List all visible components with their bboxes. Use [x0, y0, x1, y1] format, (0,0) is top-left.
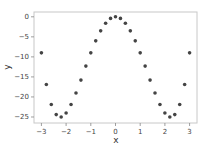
data-point: [79, 78, 83, 82]
y-tick-label: −10: [14, 53, 29, 61]
x-tick-label: −3: [36, 128, 46, 136]
data-point: [183, 83, 187, 87]
y-axis-label: y: [2, 64, 12, 70]
data-point: [124, 21, 128, 25]
y-axis-ticks: 0−5−10−15−20−25: [14, 13, 34, 121]
x-tick-label: 2: [163, 128, 167, 136]
y-tick-label: −15: [14, 73, 29, 81]
data-point: [148, 78, 152, 82]
y-tick-label: 0: [25, 13, 29, 21]
data-points: [40, 15, 192, 119]
data-point: [94, 39, 98, 43]
data-point: [54, 113, 58, 117]
x-tick-label: 3: [187, 128, 191, 136]
data-point: [84, 64, 88, 68]
y-tick-label: −20: [14, 93, 29, 101]
x-tick-label: −1: [86, 128, 96, 136]
x-tick-label: −2: [61, 128, 71, 136]
data-point: [153, 91, 157, 95]
data-point: [49, 103, 53, 107]
data-point: [89, 51, 93, 55]
x-axis-label: x: [113, 135, 119, 145]
data-point: [109, 17, 113, 21]
data-point: [188, 51, 192, 55]
data-point: [74, 91, 78, 95]
data-point: [173, 113, 177, 117]
data-point: [114, 15, 118, 19]
data-point: [178, 103, 182, 107]
x-tick-label: 1: [138, 128, 142, 136]
data-point: [40, 51, 44, 55]
data-point: [64, 111, 68, 115]
data-point: [133, 39, 137, 43]
data-point: [168, 115, 172, 119]
data-point: [163, 111, 167, 115]
y-tick-label: −5: [19, 33, 29, 41]
data-point: [129, 29, 133, 33]
data-point: [99, 29, 103, 33]
data-point: [45, 83, 49, 87]
data-point: [69, 103, 73, 107]
data-point: [104, 21, 108, 25]
axes-frame: [34, 12, 197, 123]
data-point: [158, 103, 162, 107]
data-point: [138, 51, 142, 55]
scatter-chart: −3−2−10123 0−5−10−15−20−25 x y: [0, 0, 207, 148]
y-tick-label: −25: [14, 113, 29, 121]
data-point: [143, 64, 147, 68]
data-point: [119, 17, 123, 21]
data-point: [59, 115, 63, 119]
